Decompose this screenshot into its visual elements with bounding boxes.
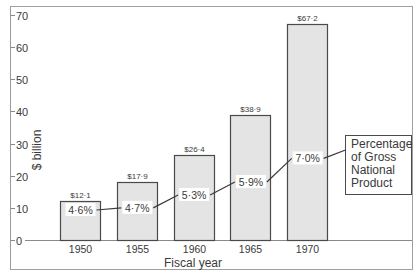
y-tick-label: 50 <box>16 74 28 86</box>
y-tick-label: 70 <box>16 10 28 22</box>
bars-group <box>61 25 328 241</box>
bar-value-label: $38·9 <box>240 105 261 114</box>
legend-line-3: National <box>351 163 395 177</box>
y-tick-label: 60 <box>16 42 28 54</box>
percentage-label: 5·3% <box>182 189 207 201</box>
x-tick-label: 1950 <box>69 243 93 255</box>
bar-value-label: $12·1 <box>70 191 91 200</box>
y-tick-label: 0 <box>16 235 22 247</box>
y-tick-label: 20 <box>16 171 28 183</box>
legend-box: Percentage of Gross National Product <box>346 136 413 195</box>
legend-line-2: of Gross <box>351 150 396 164</box>
percentage-label: 4·7% <box>125 202 150 214</box>
x-tick-label: 1970 <box>296 243 320 255</box>
x-tick-label: 1955 <box>126 243 150 255</box>
chart: 010203040506070 $ billion $12·1$17·9$26·… <box>0 0 420 280</box>
y-axis-title: $ billion <box>30 130 44 171</box>
x-tick-label: 1965 <box>239 243 263 255</box>
percentage-label: 4·6% <box>68 204 93 216</box>
y-tick-label: 40 <box>16 106 28 118</box>
bar-value-label: $17·9 <box>127 172 148 181</box>
bar-1970 <box>288 25 328 241</box>
bar-value-label: $26·4 <box>184 145 205 154</box>
x-tick-label: 1960 <box>183 243 207 255</box>
y-tick-label: 10 <box>16 203 28 215</box>
x-axis-title: Fiscal year <box>164 256 222 270</box>
y-tick-label: 30 <box>16 139 28 151</box>
percentage-label: 7·0% <box>295 152 320 164</box>
x-category-labels: 19501955196019651970 <box>69 243 320 255</box>
legend-line-4: Product <box>351 176 393 190</box>
legend-line-1: Percentage <box>351 137 413 151</box>
y-axis-ticks: 010203040506070 <box>11 10 29 247</box>
percentage-label: 5·9% <box>239 176 264 188</box>
bar-value-label: $67·2 <box>297 14 318 23</box>
